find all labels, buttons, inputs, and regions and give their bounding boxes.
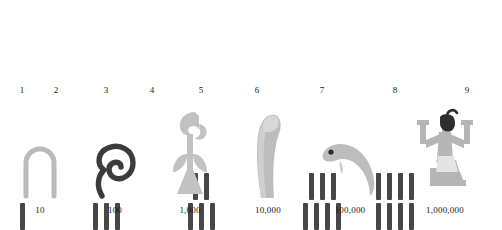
sign-group-100000 bbox=[295, 110, 405, 198]
lotus-plant-icon bbox=[165, 110, 215, 198]
coiled-rope-icon bbox=[92, 142, 138, 198]
glyph-art bbox=[295, 110, 405, 198]
unit-label-7: 7 bbox=[282, 85, 362, 95]
tadpole-icon bbox=[317, 138, 383, 198]
heel-bone-arch-icon bbox=[19, 142, 61, 198]
unit-label-9: 9 bbox=[427, 85, 502, 95]
sign-label-1000000: 1,000,000 bbox=[390, 205, 500, 215]
sign-group-1000000 bbox=[390, 110, 500, 198]
egyptian-numerals-figure: 1 2 3 4 5 6 bbox=[0, 0, 502, 230]
unit-label-8: 8 bbox=[355, 85, 435, 95]
glyph-art bbox=[390, 110, 500, 198]
kneeling-god-heh-icon bbox=[414, 112, 476, 198]
sign-label-100000: 100,000 bbox=[295, 205, 405, 215]
finger-icon bbox=[250, 112, 286, 198]
